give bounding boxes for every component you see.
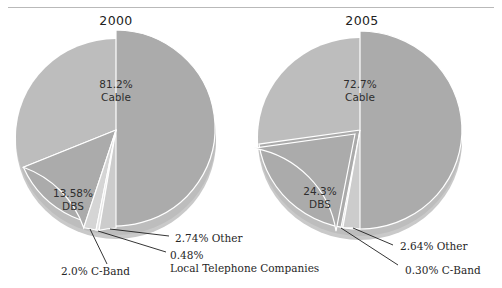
- label-2005-cable-pct: 72.7%: [310, 78, 410, 91]
- callout-2000-local-name: Local Telephone Companies: [170, 262, 319, 275]
- label-2000-dbs-name: DBS: [35, 200, 111, 213]
- label-2000-dbs-pct: 13.58%: [35, 187, 111, 200]
- label-2000-cable-name: Cable: [66, 91, 166, 104]
- label-2005-dbs-pct: 24.3%: [282, 185, 358, 198]
- label-2005-cable-name: Cable: [310, 91, 410, 104]
- figure-container: 2000 2005: [0, 0, 502, 288]
- callout-2005-c-band: 0.30% C-Band: [405, 264, 481, 277]
- callout-2000-other: 2.74% Other: [175, 232, 243, 245]
- callout-2000-local-pct: 0.48%: [170, 249, 319, 262]
- label-2000-cable-pct: 81.2%: [66, 78, 166, 91]
- callout-2005-other: 2.64% Other: [400, 240, 468, 253]
- label-2005-dbs-name: DBS: [282, 198, 358, 211]
- callout-2000-c-band: 2.0% C-Band: [61, 265, 130, 278]
